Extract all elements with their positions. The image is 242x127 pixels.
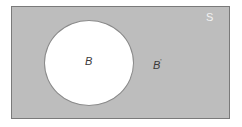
complement-mark: ' [160, 58, 161, 65]
set-b-label: B [85, 55, 92, 67]
universe-label: S [206, 11, 213, 23]
complement-label: B' [153, 58, 162, 71]
